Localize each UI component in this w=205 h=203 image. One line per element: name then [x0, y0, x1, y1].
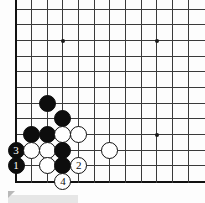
grid-line-horizontal: [16, 87, 205, 88]
grid-line-horizontal: [16, 9, 205, 10]
go-board[interactable]: 3124: [0, 0, 205, 203]
grid-line-vertical: [172, 0, 173, 183]
grid-line-horizontal: [16, 40, 205, 41]
star-point: [155, 133, 159, 137]
grid-line-vertical: [94, 0, 95, 183]
stone-white[interactable]: [23, 142, 40, 159]
grid-line-vertical: [141, 0, 142, 183]
stone-black[interactable]: [54, 110, 71, 127]
stone-white[interactable]: [39, 142, 56, 159]
stone-white[interactable]: [70, 126, 87, 143]
grid-line-vertical: [78, 0, 79, 183]
grid-line-vertical: [188, 0, 189, 183]
go-problem-diagram: 3124: [0, 0, 205, 203]
grid-line-horizontal: [16, 71, 205, 72]
stone-white[interactable]: [101, 142, 118, 159]
move-number-label: 2: [76, 160, 82, 171]
grid-line-horizontal: [16, 118, 205, 119]
stone-black[interactable]: [54, 142, 71, 159]
star-point: [61, 39, 65, 43]
stone-white[interactable]: [54, 126, 71, 143]
stone-white-move-4[interactable]: 4: [54, 173, 71, 190]
move-number-label: 4: [60, 176, 66, 187]
move-number-label: 3: [13, 144, 19, 155]
stone-black[interactable]: [23, 126, 40, 143]
stone-white-move-2[interactable]: 2: [70, 157, 87, 174]
stone-black-move-3[interactable]: 3: [8, 142, 25, 159]
board-edge-bottom: [16, 181, 205, 183]
move-number-label: 1: [13, 160, 19, 171]
grid-line-vertical: [156, 0, 157, 183]
stone-white[interactable]: [39, 157, 56, 174]
stone-black[interactable]: [39, 126, 56, 143]
scroll-strip: [8, 195, 78, 203]
star-point: [155, 39, 159, 43]
grid-line-vertical: [125, 0, 126, 183]
grid-line-horizontal: [16, 24, 205, 25]
stone-black[interactable]: [54, 157, 71, 174]
stone-black-move-1[interactable]: 1: [8, 157, 25, 174]
stone-black[interactable]: [39, 95, 56, 112]
resize-handle-icon[interactable]: [8, 191, 15, 198]
grid-line-horizontal: [16, 56, 205, 57]
